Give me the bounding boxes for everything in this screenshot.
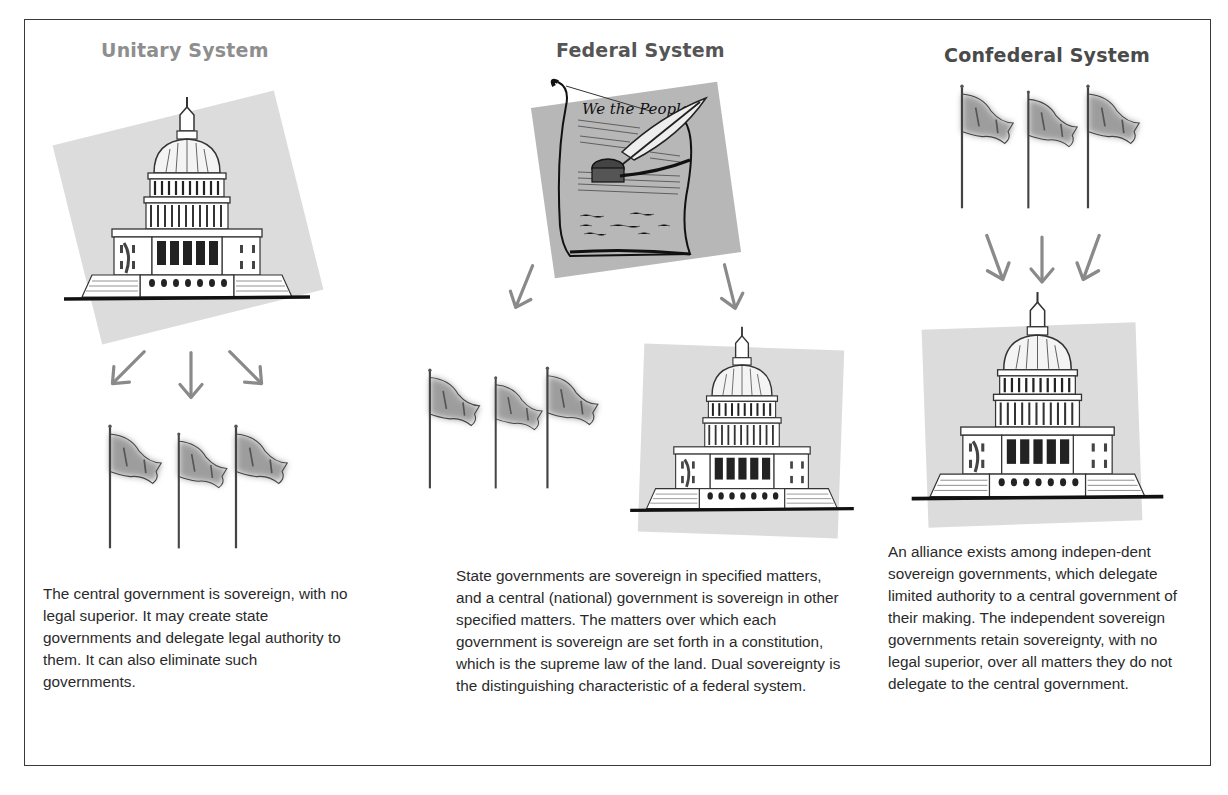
unitary-title: Unitary System [101, 39, 269, 61]
confederal-description: An alliance exists among indepen-dent so… [888, 541, 1188, 695]
capitol-icon [617, 325, 867, 525]
flag-icon [541, 364, 611, 490]
capitol-icon [905, 290, 1170, 515]
flag-icon [1081, 82, 1153, 210]
confederal-title: Confederal System [944, 44, 1150, 66]
capitol-icon [62, 95, 312, 315]
unitary-description: The central government is sovereign, wit… [43, 583, 353, 693]
flag-icon [423, 366, 493, 490]
flag-icon [104, 422, 174, 550]
arrow-down-icon [176, 348, 206, 403]
flag-icon [955, 82, 1027, 210]
federal-description: State governments are sovereign in speci… [456, 565, 846, 697]
federal-title: Federal System [556, 39, 725, 61]
constitution-icon: We the People [530, 76, 730, 266]
arrow-down-icon [1027, 232, 1057, 288]
flag-icon [230, 422, 300, 550]
